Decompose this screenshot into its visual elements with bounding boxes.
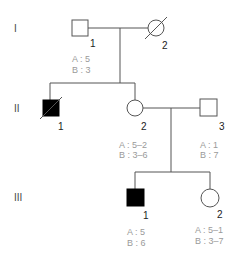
individual-I-2-label: 2 — [162, 40, 168, 51]
individual-III-1-genotype-b: B : 6 — [127, 238, 146, 248]
individual-III-1-label: 1 — [143, 210, 149, 221]
individual-II-3-genotype-a: A : 1 — [200, 140, 218, 150]
individual-II-3-label: 3 — [219, 121, 225, 132]
individual-I-1-label: 1 — [90, 38, 96, 49]
individual-III-2-genotype-b: B : 3–7 — [195, 236, 224, 246]
individual-III-2-genotype-a: A : 5–1 — [195, 225, 223, 235]
individual-I-1-genotype-b: B : 3 — [72, 65, 91, 75]
individual-III-2-female-symbol — [201, 189, 219, 207]
individual-II-1-label: 1 — [58, 121, 64, 132]
individual-III-1-genotype-a: A : 5 — [127, 227, 145, 237]
generation-label-1: I — [14, 23, 17, 34]
individual-II-3-genotype-b: B : 7 — [200, 150, 219, 160]
individual-III-2-label: 2 — [217, 209, 223, 220]
individual-III-1-affected-male-symbol — [127, 189, 144, 206]
generation-label-2: II — [14, 103, 20, 114]
individual-II-2-female-symbol — [127, 100, 143, 116]
individual-II-2-genotype-a: A : 5–2 — [119, 140, 147, 150]
individual-II-2-genotype-b: B : 3–6 — [119, 150, 148, 160]
individual-II-3-male-symbol — [200, 99, 217, 116]
generation-label-3: III — [14, 192, 22, 203]
pedigree-chart: I II III 1 A : 5 B : 3 2 1 2 A : 5–2 B :… — [0, 0, 237, 262]
individual-I-1-genotype-a: A : 5 — [72, 54, 90, 64]
individual-II-2-label: 2 — [141, 121, 147, 132]
individual-I-1-male-symbol — [72, 20, 88, 36]
